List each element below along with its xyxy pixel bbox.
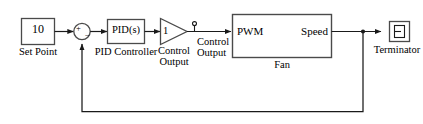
sum-plus-sign: +	[76, 23, 81, 33]
pid-controller-value: PID(s)	[107, 24, 145, 35]
set-point-block-label: Set Point	[11, 46, 65, 57]
gain-value: 1	[163, 25, 168, 36]
signal-label-control-output-line1: Control	[197, 36, 237, 47]
fan-output-port-label: Speed	[300, 25, 328, 37]
gain-block-label-line2: Output	[146, 57, 202, 68]
terminator-block-label: Terminator	[371, 44, 423, 55]
signal-label-control-output-line2: Output	[197, 47, 237, 58]
block-diagram-canvas: 10 Set Point + − PID(s) PID Controller 1…	[0, 0, 423, 124]
fan-input-port-label: PWM	[237, 25, 263, 37]
diagram-wires-layer	[0, 0, 423, 124]
sum-minus-sign: −	[85, 30, 90, 40]
set-point-value: 10	[21, 22, 55, 37]
signal-marker-icon	[193, 22, 197, 26]
fan-block-label: Fan	[262, 59, 302, 70]
